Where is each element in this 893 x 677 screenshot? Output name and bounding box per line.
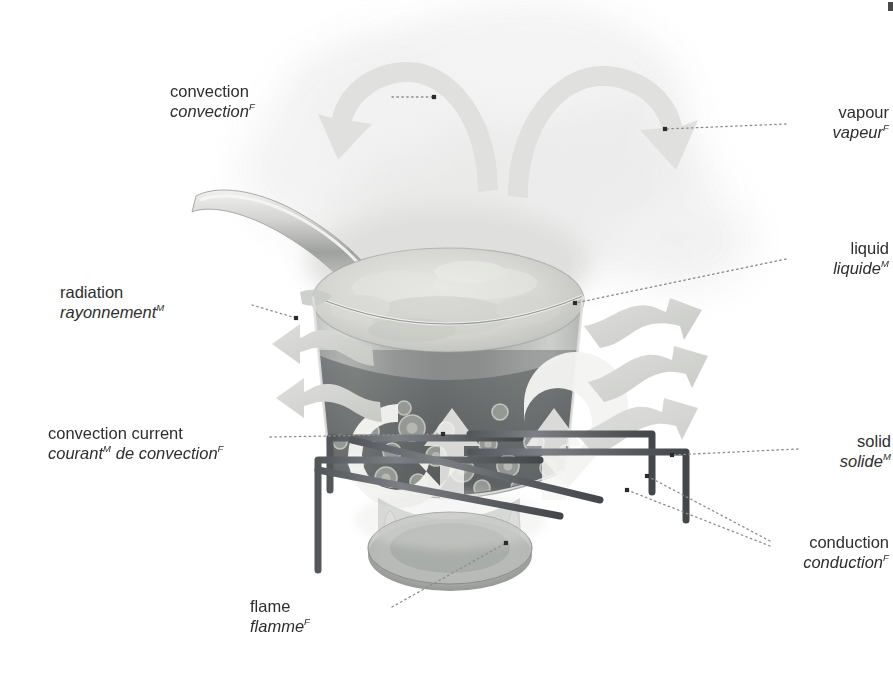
leader-flame-endpoint-dot [504, 541, 508, 545]
label-solid-en: solid [806, 432, 891, 451]
label-solid-fr: solideM [806, 451, 891, 471]
label-vapour-fr: vapeurF [794, 122, 889, 142]
label-liquid-fr: liquideM [794, 258, 889, 278]
label-flame: flame flammeF [250, 597, 385, 636]
leader-solid-endpoint-dot [670, 453, 674, 457]
label-convection-fr: convectionF [170, 101, 385, 121]
label-conduction: conduction conductionF [777, 533, 889, 572]
leader-convection-current-endpoint-dot [441, 432, 445, 436]
label-convection: convection convectionF [170, 82, 385, 121]
label-solid: solid solideM [806, 432, 891, 471]
label-conduction-en: conduction [777, 533, 889, 552]
heat-transfer-illustration [0, 0, 893, 677]
leader-conduction-b [627, 490, 770, 546]
label-convection-en: convection [170, 82, 385, 101]
label-flame-en: flame [250, 597, 385, 616]
leader-radiation [252, 305, 296, 318]
label-convection-current: convection current courantM de convectio… [48, 424, 263, 463]
leader-solid [672, 449, 798, 455]
label-vapour-en: vapour [794, 103, 889, 122]
label-convection-current-fr: courantM de convectionF [48, 443, 263, 463]
leader-liquid-endpoint-dot [573, 301, 577, 305]
scan-artifact-speck [888, 2, 893, 11]
leader-radiation-endpoint-dot [294, 316, 298, 320]
label-vapour: vapour vapeurF [794, 103, 889, 142]
label-convection-current-en: convection current [48, 424, 263, 443]
leader-convection-endpoint-dot [432, 95, 436, 99]
label-radiation-en: radiation [60, 283, 246, 302]
leader-conduction-b-endpoint-dot [625, 488, 629, 492]
label-conduction-fr: conductionF [777, 552, 889, 572]
leader-conduction-a [647, 476, 770, 541]
label-radiation: radiation rayonnementM [60, 283, 246, 322]
illustration-canvas: convection convectionF vapour vapeurF li… [0, 0, 893, 677]
label-liquid-en: liquid [794, 239, 889, 258]
label-radiation-fr: rayonnementM [60, 302, 246, 322]
leader-vapour-endpoint-dot [663, 127, 667, 131]
label-flame-fr: flammeF [250, 616, 385, 636]
label-liquid: liquid liquideM [794, 239, 889, 278]
leader-conduction-a-endpoint-dot [645, 474, 649, 478]
